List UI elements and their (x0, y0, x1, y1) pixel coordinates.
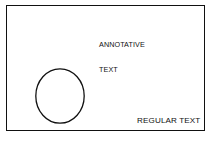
drawing-border-frame: ANNOTATIVE TEXT REGULAR TEXT (6, 5, 205, 131)
circle-shape[interactable] (35, 68, 85, 124)
circle-outline (36, 69, 84, 123)
annotative-text-label[interactable]: ANNOTATIVE TEXT (99, 24, 145, 92)
regular-text-value: REGULAR TEXT (137, 116, 200, 125)
annotative-text-line-1: ANNOTATIVE (99, 41, 145, 49)
regular-text-label[interactable]: REGULAR TEXT (123, 106, 200, 135)
drawing-canvas: ANNOTATIVE TEXT REGULAR TEXT (0, 0, 215, 144)
annotative-text-line-2: TEXT (99, 66, 145, 74)
